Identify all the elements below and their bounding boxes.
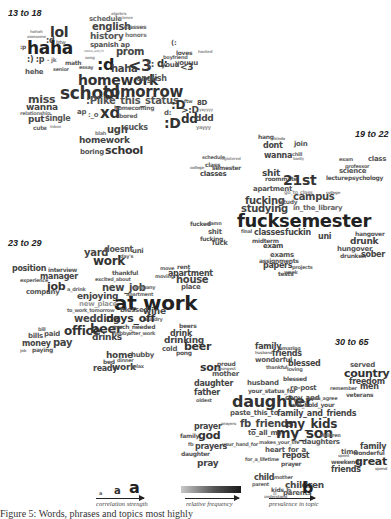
cloud-word: men bbox=[360, 383, 379, 391]
cloud-word: exam bbox=[263, 243, 283, 250]
cloud-word: :D bbox=[164, 116, 181, 130]
figure-caption: Figure 5: Words, phrases and topics most… bbox=[0, 508, 193, 519]
cloud-word: for_a_lifetime bbox=[245, 457, 279, 462]
cloud-word: relax bbox=[131, 364, 144, 369]
cloud-word: lecture bbox=[326, 175, 348, 181]
group-label-23-29: 23 to 29 bbox=[8, 238, 42, 248]
cloud-word: sober bbox=[361, 251, 385, 259]
cloud-word: dont bbox=[263, 142, 283, 150]
cloud-word: college bbox=[326, 191, 340, 195]
legend-arrow bbox=[269, 498, 315, 499]
legend-letter-medium: a bbox=[114, 486, 120, 496]
cloud-word: will_hold_your bbox=[291, 402, 335, 408]
cloud-word: boring bbox=[80, 149, 104, 156]
cloud-word: uni bbox=[318, 233, 331, 241]
cloud-word: registered bbox=[220, 157, 240, 161]
cloud-word: badly bbox=[293, 157, 304, 161]
cloud-word: ftw bbox=[184, 99, 192, 104]
legend-letter-large: b bbox=[302, 480, 313, 496]
cloud-word: day's bbox=[120, 254, 133, 259]
cloud-word: family bbox=[180, 433, 199, 439]
cloud-word: after_work bbox=[128, 331, 155, 336]
cloud-word: ap bbox=[77, 109, 86, 116]
cloud-word: hubby bbox=[113, 331, 129, 336]
cloud-word: :p bbox=[20, 44, 26, 50]
cloud-word: hehe bbox=[25, 69, 43, 76]
cloud-word: yayyy bbox=[196, 125, 211, 130]
cloud-word: pong bbox=[176, 350, 192, 356]
cloud-word: psychology bbox=[348, 175, 383, 181]
cloud-word: experience bbox=[20, 278, 48, 283]
cloud-word: daughters bbox=[302, 439, 340, 446]
cloud-word: prayers bbox=[221, 422, 236, 426]
legend-arrow bbox=[185, 498, 239, 499]
cloud-word: uni bbox=[132, 248, 143, 255]
cloud-word: company bbox=[26, 289, 59, 296]
cloud-word: loving bbox=[287, 367, 302, 372]
cloud-word: oldest bbox=[196, 398, 212, 403]
cloud-word: your_hand_for bbox=[222, 442, 258, 447]
cloud-word: classes bbox=[254, 229, 285, 237]
cloud-word: honors bbox=[125, 32, 147, 38]
cloud-word: english bbox=[136, 75, 167, 83]
cloud-word: inbox bbox=[50, 125, 61, 129]
cloud-word: daughter bbox=[194, 380, 233, 388]
legend-caption: correlation strength bbox=[96, 500, 148, 507]
legend-letter-medium: b bbox=[286, 488, 291, 496]
cloud-word: paying bbox=[32, 347, 53, 353]
legend-correlation: a a a correlation strength bbox=[96, 484, 146, 510]
cloud-word: <3 bbox=[180, 63, 193, 72]
cloud-word: company bbox=[132, 285, 155, 290]
cloud-word: school bbox=[105, 145, 143, 156]
cloud-word: yayyyy bbox=[199, 108, 213, 112]
cloud-word: essay bbox=[79, 65, 93, 70]
cloud-word: hubby bbox=[131, 352, 154, 359]
cloud-word: exam bbox=[339, 157, 353, 162]
cloud-word: pray bbox=[197, 459, 218, 468]
cloud-word: blessed bbox=[283, 376, 307, 382]
cloud-word: hacked bbox=[198, 50, 212, 54]
cloud-word: tests bbox=[278, 271, 293, 277]
cloud-word: :) :p bbox=[27, 56, 44, 64]
cloud-word: job bbox=[20, 349, 26, 353]
cloud-word: re-post bbox=[290, 385, 316, 392]
cloud-word: veterans bbox=[346, 392, 373, 398]
legend-letter-small: b bbox=[273, 491, 276, 496]
cloud-word: bored bbox=[119, 113, 137, 119]
cloud-word: friends bbox=[331, 466, 361, 474]
cloud-word: class bbox=[368, 156, 386, 163]
cloud-word: classes bbox=[200, 171, 226, 178]
cloud-word: god bbox=[198, 430, 220, 441]
cloud-word: makes_your_life bbox=[259, 440, 299, 445]
cloud-word: ddd bbox=[195, 114, 213, 123]
cloud-word: parent bbox=[252, 482, 269, 487]
cloud-word: - jk bbox=[47, 57, 56, 63]
cloud-word: fuckin bbox=[285, 229, 311, 237]
cloud-word: song bbox=[85, 56, 95, 60]
cloud-word: moving bbox=[155, 274, 174, 279]
cloud-word: youu bbox=[161, 62, 179, 69]
cloud-word: cold bbox=[162, 346, 177, 353]
cloud-word: join bbox=[294, 141, 307, 148]
cloud-word: classes bbox=[124, 24, 146, 30]
cloud-word: go_to_class bbox=[284, 190, 313, 195]
group-label-30-65: 30 to 65 bbox=[335, 337, 369, 347]
cloud-word: put bbox=[28, 115, 44, 124]
cloud-word: (: bbox=[171, 40, 176, 47]
cloud-word: place bbox=[181, 284, 201, 291]
cloud-word: :_o bbox=[88, 112, 98, 119]
cloud-word: father bbox=[194, 389, 220, 397]
legend-prevalence: b b b prevalence in topic bbox=[269, 484, 319, 510]
cloud-word: status_and_i'll bbox=[84, 50, 103, 53]
cloud-word: hang bbox=[258, 134, 274, 140]
legend-arrow bbox=[96, 498, 144, 499]
cloud-word: spend bbox=[375, 467, 387, 471]
cloud-word: science bbox=[118, 16, 133, 20]
cloud-word: fuck bbox=[212, 240, 228, 247]
frequency-gradient bbox=[181, 486, 241, 493]
group-label-19-22: 19 to 22 bbox=[355, 129, 389, 139]
legend-letter-large: a bbox=[129, 480, 140, 496]
cloud-word: repost bbox=[282, 452, 309, 460]
cloud-word: husband bbox=[247, 380, 279, 387]
